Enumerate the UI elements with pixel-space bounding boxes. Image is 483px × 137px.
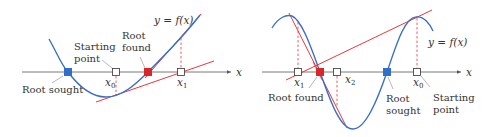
right-x0-marker	[414, 69, 421, 76]
right-root-found-label: Root found	[268, 92, 324, 103]
right-root-found-leader	[309, 77, 317, 88]
left-x1-label: x1	[177, 76, 187, 90]
right-root-sought-label-2: sought	[386, 105, 420, 116]
left-root-found-marker	[144, 68, 152, 76]
right-x2-marker	[334, 69, 341, 76]
left-x1-marker	[178, 69, 185, 76]
right-curve-label: y = f(x)	[427, 36, 467, 48]
left-starting-point-label-2: point	[74, 53, 100, 64]
left-root-found-label-1: Root	[122, 30, 146, 41]
left-x0-marker	[113, 69, 120, 76]
left-axis-label: x	[236, 66, 242, 78]
right-x1-label: x1	[294, 76, 304, 90]
left-starting-point-leader	[102, 60, 112, 68]
right-x1-marker	[295, 69, 302, 76]
right-starting-point-label-1: Starting	[433, 92, 475, 103]
newton-method-diagram: x y = f(x) Starting point Root found Roo…	[0, 0, 483, 137]
left-x0-label: x0	[105, 76, 115, 90]
right-axis-label: x	[466, 66, 472, 78]
left-root-found-leader	[140, 57, 145, 68]
left-root-sought-leader	[52, 76, 63, 83]
left-curve-label: y = f(x)	[153, 14, 193, 26]
right-x2-label: x2	[345, 73, 355, 87]
left-root-sought-label: Root sought	[22, 84, 83, 95]
left-starting-point-label-1: Starting	[74, 41, 116, 52]
right-root-found-marker	[316, 68, 324, 76]
left-panel: x y = f(x) Starting point Root found Roo…	[22, 14, 242, 102]
right-root-sought-label-1: Root	[386, 93, 410, 104]
right-root-sought-marker	[383, 68, 391, 76]
right-starting-point-label-2: point	[433, 104, 459, 115]
left-root-sought-marker	[64, 68, 72, 76]
left-root-found-label-2: found	[122, 42, 152, 53]
right-x0-label: x0	[413, 76, 423, 90]
right-panel: x y = f(x) Root found Root sought Starti…	[262, 10, 475, 129]
right-root-sought-leader	[388, 77, 393, 89]
